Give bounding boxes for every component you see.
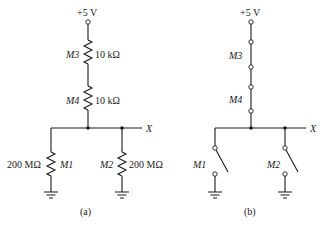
switch-m2-open-icon: [286, 150, 298, 172]
switch-terminal-icon: [283, 172, 287, 176]
resistor-m2-icon: [118, 152, 126, 176]
m2-value: 200 MΩ: [129, 159, 163, 170]
caption-b: (b): [244, 206, 256, 218]
switch-terminal-icon: [213, 172, 217, 176]
supply-terminal-icon: [249, 20, 253, 24]
resistor-m1-icon: [47, 152, 55, 176]
output-label-a: X: [145, 123, 153, 134]
switch-terminal-icon: [249, 85, 253, 89]
m3-label-a: M3: [65, 49, 79, 60]
junction-dot: [249, 126, 253, 130]
m3-value: 10 kΩ: [95, 49, 120, 60]
junction-dot: [86, 126, 90, 130]
m2-label-a: M2: [99, 159, 113, 170]
resistor-m4-icon: [84, 86, 92, 110]
m4-label-a: M4: [65, 95, 79, 106]
diagram-b: +5 V M3 M4 X M1: [192, 7, 317, 218]
ground-icon: [115, 192, 129, 198]
diagram-a: +5 V M3 10 kΩ M4 10 kΩ X 200 MΩ M1: [7, 7, 163, 218]
switch-m1-open-icon: [216, 150, 228, 172]
m4-value: 10 kΩ: [95, 95, 120, 106]
supply-terminal-icon: [86, 20, 90, 24]
m2-label-b: M2: [266, 159, 280, 170]
m1-value: 200 MΩ: [7, 159, 41, 170]
caption-a: (a): [80, 206, 91, 218]
m1-label-b: M1: [192, 159, 206, 170]
ground-icon: [278, 192, 292, 198]
switch-terminal-icon: [283, 146, 287, 150]
ground-icon: [44, 192, 58, 198]
switch-terminal-icon: [249, 109, 253, 113]
switch-terminal-icon: [249, 40, 253, 44]
m4-label-b: M4: [228, 94, 242, 105]
m1-label-a: M1: [59, 159, 73, 170]
switch-terminal-icon: [249, 65, 253, 69]
m3-label-b: M3: [228, 50, 242, 61]
switch-terminal-icon: [213, 146, 217, 150]
ground-icon: [208, 192, 222, 198]
supply-label-b: +5 V: [240, 7, 261, 18]
supply-label-a: +5 V: [77, 7, 98, 18]
circuit-diagrams: +5 V M3 10 kΩ M4 10 kΩ X 200 MΩ M1: [0, 0, 328, 226]
resistor-m3-icon: [84, 40, 92, 64]
output-label-b: X: [309, 123, 317, 134]
